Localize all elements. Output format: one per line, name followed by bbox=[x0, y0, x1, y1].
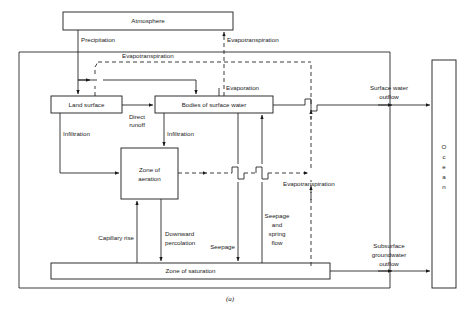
seepage-spring-label-line1: Seepage bbox=[265, 212, 290, 219]
downward-percolation-flow: Downward percolation bbox=[161, 199, 196, 261]
hydrologic-cycle-diagram: Atmosphere Land surface Bodies of surfac… bbox=[0, 0, 474, 312]
subsurface-outflow-label-line1: Subsurface bbox=[373, 242, 405, 249]
zone-of-saturation-label: Zone of saturation bbox=[166, 267, 216, 274]
direct-runoff-label-line2: runoff bbox=[129, 121, 145, 128]
evapotranspiration-top-label: Evapotranspiration bbox=[227, 36, 279, 43]
zone-of-aeration-label-line1: Zone of bbox=[139, 166, 160, 173]
zone-of-aeration-label-line2: aeration bbox=[138, 175, 161, 182]
surface-water-outflow-label-line1: Surface water bbox=[370, 84, 408, 91]
ocean-letter-3: a bbox=[442, 173, 446, 180]
seepage-label: Seepage bbox=[210, 243, 235, 250]
land-surface-box: Land surface bbox=[51, 96, 122, 113]
capillary-rise-flow: Capillary rise bbox=[98, 201, 137, 263]
ocean-letter-0: O bbox=[442, 143, 447, 150]
evaporation-label: Evaporation bbox=[226, 84, 260, 91]
ocean-letter-1: c bbox=[442, 153, 445, 160]
system-boundary-frame bbox=[19, 52, 390, 288]
subsurface-outflow-label-line3: outflow bbox=[379, 260, 399, 267]
ocean-letter-2: e bbox=[442, 163, 446, 170]
surface-water-outflow-flow: Surface water outflow bbox=[273, 84, 430, 111]
evapotranspiration-subsurface-label: Evapotranspiration bbox=[283, 180, 335, 187]
figure-caption: (a) bbox=[226, 295, 235, 303]
seepage-and-spring-flow: Seepage and spring flow bbox=[262, 115, 290, 263]
infiltration-right-label: Infiltration bbox=[167, 130, 194, 137]
direct-runoff-label-line1: Direct bbox=[129, 113, 145, 120]
zone-of-aeration-box: Zone of aeration bbox=[121, 148, 178, 199]
infiltration-left-flow: Infiltration bbox=[60, 113, 119, 173]
direct-runoff-flow: Direct runoff bbox=[122, 105, 153, 128]
evapotranspiration-subsurface-flow: Evapotranspiration bbox=[178, 167, 335, 187]
seepage-spring-label-line3: spring bbox=[269, 230, 286, 237]
seepage-spring-label-line2: and bbox=[272, 221, 283, 228]
downward-percolation-label-line1: Downward bbox=[165, 230, 195, 237]
subsurface-outflow-label-line2: groundwater bbox=[372, 251, 406, 258]
ocean-box: O c e a n bbox=[432, 60, 456, 288]
ocean-letter-4: n bbox=[442, 183, 446, 190]
precipitation-label: Precipitation bbox=[81, 36, 116, 43]
atmosphere-label: Atmosphere bbox=[131, 17, 165, 24]
atmosphere-box: Atmosphere bbox=[63, 12, 233, 30]
infiltration-left-label: Infiltration bbox=[63, 130, 90, 137]
evaporation-flow: Evaporation bbox=[219, 84, 260, 96]
surface-water-label: Bodies of surface water bbox=[182, 101, 247, 108]
diagram-canvas: Atmosphere Land surface Bodies of surfac… bbox=[0, 0, 474, 312]
capillary-rise-label: Capillary rise bbox=[98, 234, 134, 241]
seepage-spring-label-line4: flow bbox=[271, 239, 283, 246]
infiltration-right-flow: Infiltration bbox=[164, 113, 194, 146]
subsurface-groundwater-outflow-flow: Subsurface groundwater outflow bbox=[330, 242, 430, 271]
zone-of-saturation-box: Zone of saturation bbox=[51, 263, 330, 279]
land-surface-label: Land surface bbox=[69, 101, 105, 108]
downward-percolation-label-line2: percolation bbox=[165, 239, 196, 246]
surface-water-box: Bodies of surface water bbox=[155, 96, 273, 113]
evapotranspiration-riser-dashed bbox=[224, 62, 311, 266]
evapotranspiration-land-label: Evapotranspiration bbox=[122, 52, 174, 59]
evapotranspiration-land-flow: Evapotranspiration bbox=[95, 52, 224, 96]
surface-water-outflow-label-line2: outflow bbox=[379, 93, 399, 100]
seepage-flow: Seepage bbox=[210, 113, 238, 261]
